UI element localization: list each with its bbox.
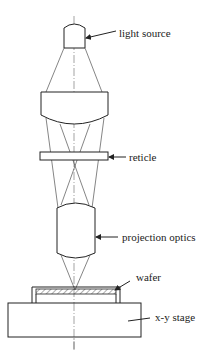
label-wafer: wafer bbox=[136, 271, 161, 283]
projection-rays bbox=[61, 255, 90, 290]
lithography-diagram: light source reticle projection optics w… bbox=[0, 0, 212, 363]
condenser-rays bbox=[46, 118, 104, 208]
wafer bbox=[36, 289, 116, 294]
label-reticle: reticle bbox=[129, 151, 157, 163]
label-projection-optics: projection optics bbox=[122, 231, 196, 243]
light-source bbox=[64, 24, 85, 48]
label-light-source: light source bbox=[119, 27, 171, 39]
label-xy-stage: x-y stage bbox=[155, 311, 195, 323]
projection-optics bbox=[57, 203, 95, 258]
xy-stage bbox=[8, 303, 141, 337]
reticle bbox=[40, 152, 108, 160]
condenser-lens bbox=[41, 92, 108, 124]
